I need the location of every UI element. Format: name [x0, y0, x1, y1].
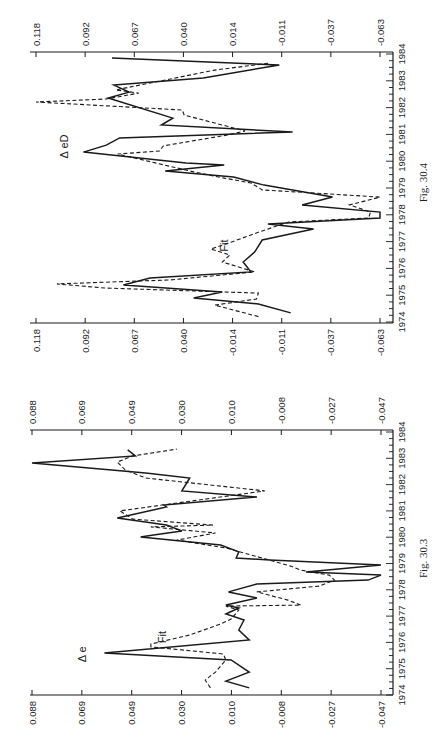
chart-fig-30-3: 0.0880.0690.0490.0300.010-0.008-0.027-0.…: [27, 397, 430, 728]
value-tick-label: -0.047: [376, 701, 387, 728]
chart-fig-30-4: 0.1180.0920.0670.040-0.014-0.011-0.037-0…: [30, 19, 429, 356]
value-tick-label: 0.118: [31, 23, 42, 46]
year-tick-label: 1978: [396, 204, 407, 225]
value-tick-label: 0.069: [76, 400, 87, 424]
series-lines: [36, 58, 380, 317]
year-tick-label: 1979: [396, 553, 407, 574]
value-tick-label: 0.067: [129, 329, 140, 353]
year-tick-label: 1981: [396, 500, 407, 521]
year-axis: 1974197519761977197819791980198119821983…: [386, 43, 407, 332]
year-tick-label: 1975: [396, 658, 407, 679]
value-tick-label: 0.049: [126, 400, 137, 424]
year-tick-label: 1982: [396, 474, 407, 495]
value-tick-label: 0.014: [227, 22, 238, 46]
value-tick-label: -0.037: [325, 19, 336, 46]
year-tick-label: 1981: [396, 124, 407, 145]
year-axis: 1974197519761977197819791980198119821983…: [386, 421, 407, 705]
value-tick-label: 0.118: [31, 329, 42, 352]
year-tick-label: 1974: [396, 684, 407, 705]
value-tick-label: -0.063: [375, 329, 386, 356]
value-tick-label: 0.040: [178, 329, 189, 353]
fit-series-line: [36, 63, 380, 317]
year-tick-label: 1980: [396, 151, 407, 172]
value-tick-label: -0.008: [276, 397, 287, 424]
year-tick-label: 1974: [396, 311, 407, 332]
series-label: Fit: [218, 240, 230, 252]
value-tick-label: -0.011: [276, 20, 287, 46]
value-tick-label: -0.027: [326, 701, 337, 728]
value-axis-right: 0.0880.0690.0490.0300.010-0.008-0.027-0.…: [27, 397, 387, 435]
year-tick-label: 1977: [396, 606, 407, 627]
year-tick-label: 1979: [396, 177, 407, 198]
year-tick-label: 1975: [396, 285, 407, 306]
value-tick-label: 0.067: [129, 22, 140, 46]
value-tick-label: -0.011: [276, 329, 287, 355]
year-tick-label: 1984: [396, 43, 407, 64]
value-tick-label: 0.010: [226, 400, 237, 424]
series-labels: Δ eFit: [76, 631, 168, 662]
value-axis-left: 0.1180.0920.0670.040-0.014-0.011-0.037-0…: [31, 318, 386, 356]
value-tick-label: 0.069: [76, 701, 87, 725]
value-tick-label: 0.088: [27, 701, 38, 725]
figure-caption: Fig. 30.4: [417, 162, 429, 202]
series-label: Δ e: [76, 646, 88, 662]
figure-page: 0.1180.0920.0670.040-0.014-0.011-0.037-0…: [0, 0, 446, 753]
actual-series-line: [84, 58, 381, 313]
year-tick-label: 1977: [396, 231, 407, 252]
year-tick-label: 1976: [396, 258, 407, 279]
value-tick-label: 0.092: [80, 22, 91, 46]
plot-frame: [30, 52, 393, 323]
year-tick-label: 1984: [396, 421, 407, 442]
figure-caption: Fig. 30.3: [417, 538, 429, 578]
value-tick-label: 0.049: [126, 701, 137, 725]
year-tick-label: 1983: [396, 448, 407, 469]
year-tick-label: 1983: [396, 70, 407, 91]
value-tick-label: -0.037: [325, 329, 336, 356]
series-label: Fit: [156, 631, 168, 643]
value-tick-label: 0.092: [80, 329, 91, 353]
value-tick-label: 0.010: [226, 701, 237, 725]
year-tick-label: 1980: [396, 527, 407, 548]
year-tick-label: 1976: [396, 632, 407, 653]
value-tick-label: -0.014: [227, 329, 238, 356]
year-tick-label: 1978: [396, 579, 407, 600]
value-axis-right: 0.1180.0920.0670.0400.014-0.011-0.037-0.…: [31, 19, 386, 57]
series-label: Δ eD: [58, 134, 70, 158]
year-tick-label: 1982: [396, 97, 407, 118]
value-tick-label: 0.030: [176, 701, 187, 725]
value-tick-label: 0.088: [27, 400, 38, 424]
value-axis-left: 0.0880.0690.0490.0300.010-0.008-0.027-0.…: [27, 690, 387, 728]
value-tick-label: -0.027: [326, 397, 337, 424]
value-tick-label: -0.047: [376, 397, 387, 424]
value-tick-label: -0.008: [276, 701, 287, 728]
value-tick-label: -0.063: [375, 19, 386, 46]
value-tick-label: 0.030: [176, 400, 187, 424]
fit-series-line: [117, 449, 334, 688]
value-tick-label: 0.040: [178, 22, 189, 46]
